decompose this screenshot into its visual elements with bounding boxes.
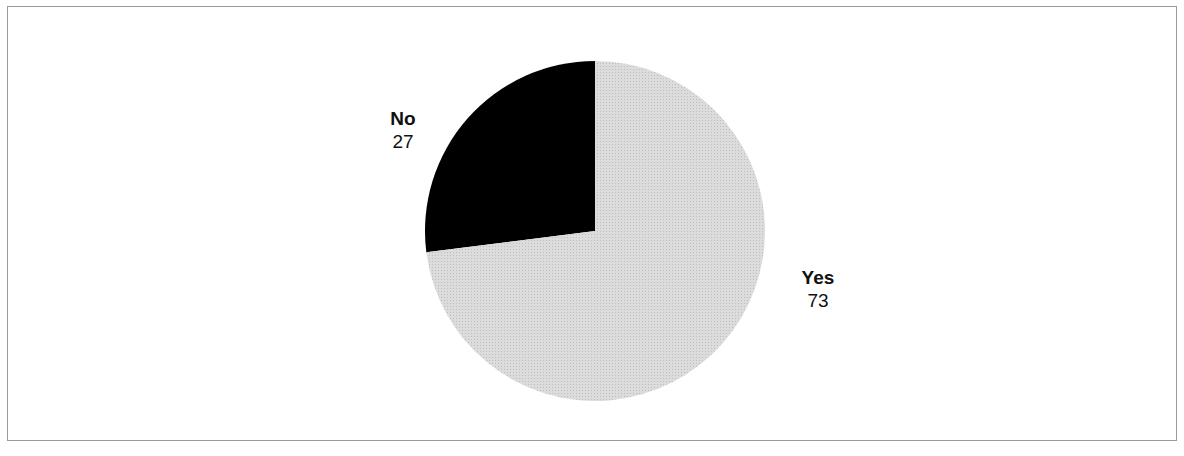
label-no: No 27 bbox=[378, 107, 428, 153]
slice-name-yes: Yes bbox=[792, 266, 844, 289]
slice-value-no: 27 bbox=[378, 130, 428, 153]
slice-value-yes: 73 bbox=[792, 289, 844, 312]
label-yes: Yes 73 bbox=[792, 266, 844, 312]
pie-chart bbox=[0, 0, 1184, 456]
slice-name-no: No bbox=[378, 107, 428, 130]
slice-no bbox=[425, 61, 595, 252]
